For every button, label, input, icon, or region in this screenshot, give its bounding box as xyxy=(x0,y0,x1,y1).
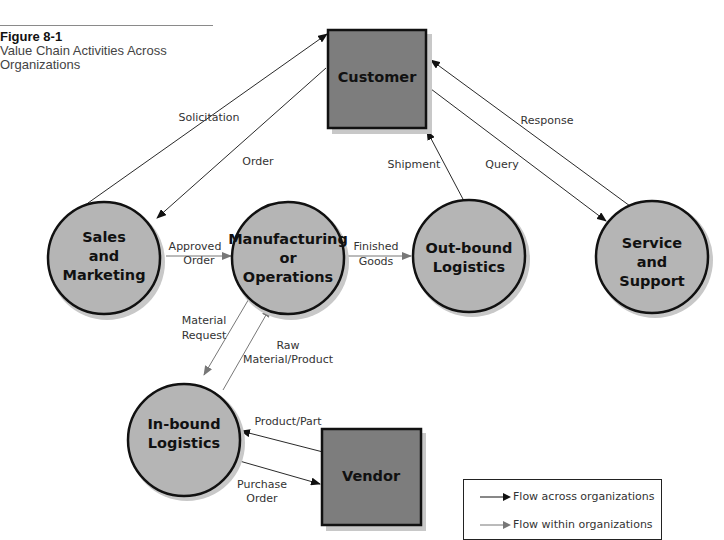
label-order: Order xyxy=(242,155,274,168)
label-approved-order-2: Order xyxy=(183,254,215,267)
sales-label-1: Sales xyxy=(82,229,126,245)
label-material-request-1: Material xyxy=(182,314,227,327)
legend-item-across: Flow across organizations xyxy=(464,490,661,506)
service-label-2: and xyxy=(637,254,668,270)
label-response: Response xyxy=(521,114,574,127)
legend-label-across: Flow across organizations xyxy=(513,490,655,503)
manufacturing-label-2: or xyxy=(279,250,297,266)
outbound-label-1: Out-bound xyxy=(426,240,513,256)
node-sales-marketing: Sales and Marketing xyxy=(48,202,165,320)
inbound-label-2: Logistics xyxy=(148,435,220,451)
label-query: Query xyxy=(485,158,519,171)
edge-query xyxy=(427,86,606,221)
edge-response xyxy=(431,60,630,206)
legend-label-within: Flow within organizations xyxy=(513,518,653,531)
service-label-1: Service xyxy=(622,235,682,251)
sales-label-2: and xyxy=(89,248,120,264)
dark-arrow-icon xyxy=(480,492,512,502)
label-shipment: Shipment xyxy=(388,158,441,171)
edge-raw-material xyxy=(223,308,270,390)
label-product-part: Product/Part xyxy=(254,415,322,428)
gray-arrow-icon xyxy=(480,520,512,530)
legend-item-within: Flow within organizations xyxy=(464,518,661,534)
node-vendor: Vendor xyxy=(322,429,426,531)
sales-label-3: Marketing xyxy=(62,267,145,283)
node-service-support: Service and Support xyxy=(596,201,713,318)
outbound-label-2: Logistics xyxy=(433,259,505,275)
node-inbound-logistics: In-bound Logistics xyxy=(128,384,245,501)
manufacturing-label-3: Operations xyxy=(243,269,333,285)
legend: Flow across organizations Flow within or… xyxy=(463,479,662,540)
label-raw-material-1: Raw xyxy=(276,339,299,352)
vendor-label: Vendor xyxy=(342,468,401,484)
service-label-3: Support xyxy=(619,273,685,289)
label-purchase-order-2: Order xyxy=(246,492,278,505)
label-material-request-2: Request xyxy=(182,329,227,342)
customer-label: Customer xyxy=(338,69,417,85)
value-chain-diagram: Customer Sales and Marketing Manufacturi… xyxy=(0,0,724,540)
manufacturing-label-1: Manufacturing xyxy=(228,231,348,247)
edge-order xyxy=(157,68,326,218)
label-approved-order-1: Approved xyxy=(169,240,222,253)
edge-product-part xyxy=(241,431,323,452)
label-purchase-order-1: Purchase xyxy=(237,478,287,491)
label-raw-material-2: Material/Product xyxy=(243,353,334,366)
node-customer: Customer xyxy=(328,30,432,134)
node-outbound-logistics: Out-bound Logistics xyxy=(413,200,530,317)
label-solicitation: Solicitation xyxy=(178,111,239,124)
label-finished-goods-2: Goods xyxy=(359,255,394,268)
label-finished-goods-1: Finished xyxy=(353,240,398,253)
inbound-label-1: In-bound xyxy=(147,416,220,432)
